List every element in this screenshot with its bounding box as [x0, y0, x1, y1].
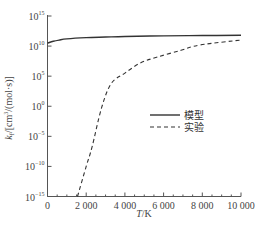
- x-tick-label: 8 000: [191, 200, 214, 211]
- x-tick-label: 6 000: [152, 200, 175, 211]
- y-tick-label: 100: [32, 100, 45, 112]
- y-tick-label: 105: [32, 70, 45, 82]
- legend-label-model: 模型: [184, 109, 204, 121]
- y-tick-label: 10−15: [25, 191, 44, 203]
- experiment-curve: [77, 40, 241, 196]
- x-tick-label: 4 000: [114, 200, 137, 211]
- y-tick-label: 1010: [29, 40, 45, 52]
- model-curve: [48, 35, 242, 43]
- x-tick-label: 10 000: [227, 200, 255, 211]
- y-axis-title: kf/[cm3/(mol·s)]: [3, 76, 16, 140]
- rate-coefficient-chart: 1015101010510010−510−1010−15 02 0004 000…: [0, 0, 265, 230]
- y-tick-label: 1015: [29, 10, 45, 22]
- legend: 模型 实验: [150, 109, 204, 133]
- legend-label-experiment: 实验: [184, 121, 204, 133]
- y-tick-label: 10−10: [25, 160, 44, 172]
- y-tick-label: 10−5: [28, 130, 44, 142]
- x-tick-label: 2 000: [75, 200, 98, 211]
- axes: [48, 15, 242, 197]
- x-axis-title: T/K: [136, 208, 152, 219]
- x-tick-label: 0: [45, 200, 50, 211]
